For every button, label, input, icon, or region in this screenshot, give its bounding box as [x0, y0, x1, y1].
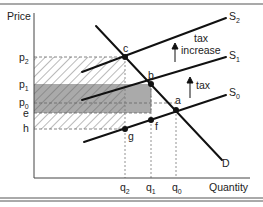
tick-h: h	[23, 122, 29, 134]
hatched-region	[34, 57, 125, 129]
point-b	[148, 81, 154, 87]
label-point-g: g	[128, 130, 134, 142]
point-c	[122, 54, 128, 60]
annotation-tax: tax	[196, 79, 211, 91]
label-point-c-text: c	[123, 42, 128, 54]
label-point-a: a	[175, 94, 181, 106]
label-point-b: b	[148, 69, 154, 81]
tick-q1: q1	[146, 181, 156, 195]
tick-p2: p2	[19, 51, 29, 65]
point-a	[173, 107, 179, 113]
label-d: D	[222, 157, 230, 169]
tick-q0: q0	[172, 181, 182, 195]
tick-q2: q2	[120, 181, 130, 195]
x-axis-label: Quantity	[209, 181, 249, 193]
label-s1: S1	[229, 49, 240, 63]
annotation-tax-increase-1: tax	[194, 32, 209, 44]
annotation-tax-increase-2: increase	[181, 44, 221, 56]
y-axis-label: Price	[7, 10, 31, 22]
tax-incidence-diagram: Price Quantity p2 p1 p0 e h q2 q1 q0 S2 …	[0, 0, 263, 207]
label-s2: S2	[229, 10, 240, 24]
point-f	[148, 117, 154, 123]
tick-e: e	[23, 107, 29, 119]
label-point-f: f	[155, 120, 158, 132]
tick-p1: p1	[19, 78, 29, 92]
label-s0: S0	[229, 86, 240, 100]
